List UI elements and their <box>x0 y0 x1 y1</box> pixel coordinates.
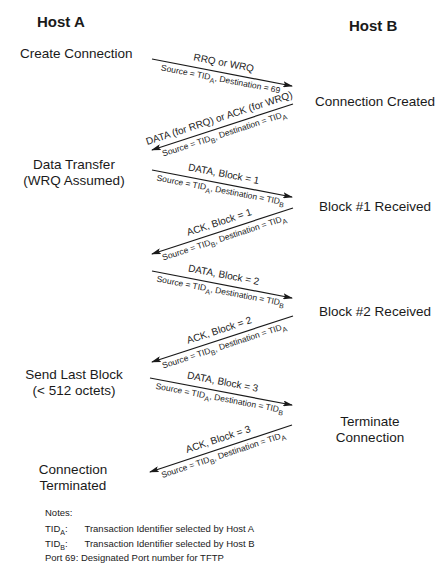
destination-subscript: A <box>281 113 288 121</box>
note-port-69: Port 69: Designated Port number for TFTP <box>45 552 224 563</box>
note-key-text: TID <box>45 538 60 549</box>
note-tid-a: TIDA: Transaction Identifier selected by… <box>45 523 254 536</box>
note-text: Transaction Identifier selected by Host … <box>84 523 254 534</box>
note-key: TIDB: <box>45 538 82 551</box>
note-text: Designated Port number for TFTP <box>81 552 224 563</box>
note-key: TIDA: <box>45 523 82 536</box>
notes-title: Notes: <box>45 507 72 518</box>
note-key-text: TID <box>45 523 60 534</box>
note-text: Transaction Identifier selected by Host … <box>84 538 254 549</box>
note-tid-b: TIDB: Transaction Identifier selected by… <box>45 538 255 551</box>
destination-subscript: A <box>281 217 288 225</box>
note-key-suffix: : <box>65 538 68 549</box>
destination-subscript: A <box>281 325 288 333</box>
destination-subscript: A <box>280 434 287 442</box>
note-key: Port 69: <box>45 552 78 563</box>
note-key-suffix: : <box>65 523 68 534</box>
